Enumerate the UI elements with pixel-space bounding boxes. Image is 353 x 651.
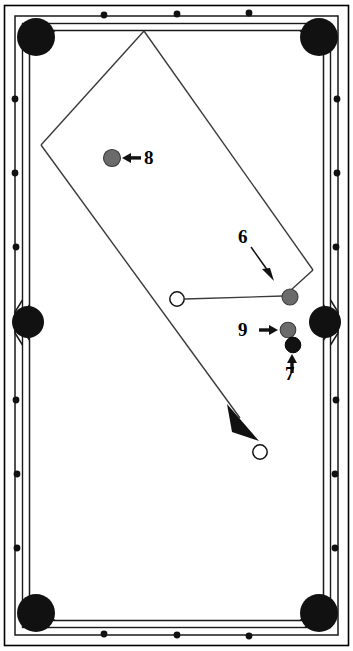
pocket-side-right (309, 306, 341, 338)
diamond-bottom-1 (101, 631, 108, 638)
diamond-right-1 (334, 96, 341, 103)
pocket-bottom-right (300, 594, 338, 632)
diamond-left-3 (13, 244, 20, 251)
ball-label-8: 8 (144, 148, 154, 167)
diamond-right-5 (332, 471, 339, 478)
diamond-right-2 (334, 170, 341, 177)
pool-table-canvas (0, 0, 353, 651)
pool-table-diagram: 8 6 9 7 (0, 0, 353, 651)
ball-label-9: 9 (238, 320, 248, 339)
diamond-top-3 (246, 10, 253, 17)
ball-label-6: 6 (238, 227, 248, 246)
diamond-left-2 (12, 170, 19, 177)
diamond-right-6 (332, 545, 339, 552)
cue-ball-end (253, 445, 267, 459)
object-ball-9 (280, 322, 296, 338)
pocket-top-left (17, 18, 55, 56)
ball-label-7: 7 (285, 364, 295, 383)
object-ball-8 (104, 150, 121, 167)
cue-ball-start (170, 292, 184, 306)
diamond-left-5 (14, 471, 21, 478)
diamond-left-6 (14, 545, 21, 552)
diamond-top-2 (174, 11, 181, 18)
pocket-bottom-left (17, 594, 55, 632)
pocket-side-left (12, 306, 44, 338)
diamond-right-4 (333, 397, 340, 404)
diamond-top-1 (101, 12, 108, 19)
diamond-bottom-3 (246, 633, 253, 640)
pocket-top-right (300, 18, 338, 56)
diamond-left-4 (13, 397, 20, 404)
diamond-right-3 (333, 244, 340, 251)
object-ball-7 (285, 337, 301, 353)
diamond-bottom-2 (174, 632, 181, 639)
object-ball-6 (282, 289, 298, 305)
diamond-left-1 (12, 96, 19, 103)
playfield-cushion-line (30, 31, 324, 621)
